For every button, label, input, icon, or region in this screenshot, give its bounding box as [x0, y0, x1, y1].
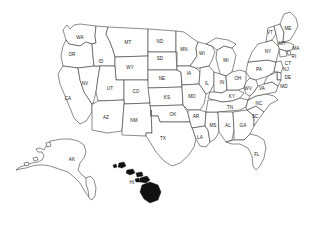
state-label-SD: SD [157, 56, 164, 61]
alaska-island-top[interactable] [46, 142, 51, 147]
state-label-VT: VT [267, 30, 273, 35]
state-label-TX: TX [160, 136, 166, 141]
hawaii-island-lanai[interactable] [135, 178, 140, 182]
hawaii-island-niihau[interactable] [113, 164, 117, 168]
hawaii-island-molokai[interactable] [136, 172, 143, 177]
state-label-TN: TN [227, 105, 233, 110]
state-label-VA: VA [259, 86, 266, 91]
state-label-RI: RI [292, 54, 297, 59]
state-label-IL: IL [205, 81, 209, 86]
state-label-AL: AL [225, 123, 231, 128]
state-shape-RI[interactable] [287, 51, 291, 55]
state-label-SC: SC [252, 114, 259, 119]
state-label-AZ: AZ [103, 115, 109, 120]
state-label-LA: LA [197, 135, 204, 140]
hawaii-island-kauai[interactable] [118, 162, 126, 168]
state-label-NC: NC [256, 101, 263, 106]
state-label-MA: MA [292, 46, 300, 51]
state-label-IN: IN [220, 80, 225, 85]
us-map-container: WAORCANVIDMTWYUTAZCONMNDSDNEKSOKTXMNIAMO… [0, 0, 321, 225]
state-label-ME: ME [284, 26, 291, 31]
state-label-PA: PA [256, 67, 263, 72]
state-label-CA: CA [65, 96, 72, 101]
alaska-aleutian-2[interactable] [24, 162, 29, 166]
state-label-GA: GA [240, 123, 248, 128]
us-map-svg: WAORCANVIDMTWYUTAZCONMNDSDNEKSOKTXMNIAMO… [0, 0, 321, 225]
state-label-WY: WY [126, 65, 134, 70]
state-label-NM: NM [130, 118, 137, 123]
alaska-panhandle[interactable] [86, 176, 96, 200]
state-label-CO: CO [132, 89, 139, 94]
state-label-KY: KY [229, 94, 235, 99]
hawaii-island-oahu[interactable] [126, 169, 135, 175]
alaska-aleutian-1[interactable] [33, 157, 38, 161]
state-label-CT: CT [285, 61, 291, 66]
state-label-OR: OR [68, 52, 76, 57]
state-label-NV: NV [82, 81, 89, 86]
state-label-WI: WI [199, 51, 205, 56]
state-label-MT: MT [125, 40, 132, 45]
state-label-UT: UT [107, 86, 113, 91]
state-shape-DE[interactable] [277, 72, 281, 80]
state-label-HI: HI [130, 180, 135, 185]
hawaii-island-hawaii[interactable] [140, 182, 161, 203]
state-shape-AK[interactable] [16, 139, 94, 198]
alaska-inset-group [16, 139, 96, 200]
state-label-KS: KS [164, 95, 170, 100]
state-label-NE: NE [159, 76, 166, 81]
state-label-MO: MO [188, 94, 196, 99]
state-label-MD: MD [280, 84, 288, 89]
state-label-MS: MS [209, 123, 216, 128]
state-label-WA: WA [76, 35, 84, 40]
state-label-IA: IA [187, 71, 192, 76]
state-label-NH: NH [279, 41, 286, 46]
state-label-MI: MI [223, 58, 228, 63]
state-label-OK: OK [170, 112, 178, 117]
hawaii-island-maui[interactable] [140, 176, 150, 183]
state-label-MN: MN [180, 47, 187, 52]
state-label-NJ: NJ [283, 67, 289, 72]
state-label-FL: FL [254, 152, 260, 157]
state-label-ND: ND [157, 39, 164, 44]
state-label-ID: ID [99, 59, 104, 64]
state-label-AK: AK [69, 157, 76, 162]
state-label-WV: WV [244, 86, 252, 91]
state-label-AR: AR [193, 114, 200, 119]
state-label-NY: NY [265, 49, 272, 54]
state-label-OH: OH [234, 76, 241, 81]
hawaii-inset-group [113, 162, 161, 203]
state-label-DE: DE [285, 75, 292, 80]
